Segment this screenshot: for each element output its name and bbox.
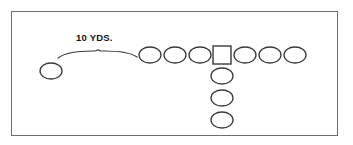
play-diagram: 10 YDS.	[0, 0, 353, 145]
line-oval-3	[189, 47, 211, 63]
backfield-oval-1	[211, 68, 233, 84]
line-oval-4	[234, 47, 256, 63]
ten-yard-label: 10 YDS.	[76, 32, 113, 43]
ten-yard-brace	[58, 50, 137, 58]
center-square	[213, 46, 231, 64]
backfield-oval-2	[211, 90, 233, 106]
line-oval-6	[284, 47, 306, 63]
line-oval-5	[259, 47, 281, 63]
backfield-oval-3	[211, 112, 233, 128]
line-oval-1	[139, 47, 161, 63]
split-receiver-left	[40, 63, 62, 79]
line-oval-2	[164, 47, 186, 63]
formation-canvas: 10 YDS.	[0, 0, 353, 145]
